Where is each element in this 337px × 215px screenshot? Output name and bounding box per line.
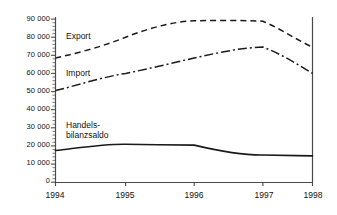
y-axis-major-ticks: [51, 19, 55, 182]
series-label-import: Import: [66, 68, 90, 78]
series-line-import: [56, 47, 313, 91]
series-label-handelsbilanzsaldo-line2: bilanzsaldo: [66, 130, 109, 140]
series-label-handelsbilanzsaldo: Handels- bilanzsaldo: [66, 120, 109, 140]
y-axis-minor-ticks: [53, 23, 56, 179]
series-label-handelsbilanzsaldo-line1: Handels-: [66, 120, 109, 130]
series-line-handelsbilanzsaldo: [56, 144, 313, 156]
plot-area: [0, 0, 337, 215]
line-chart: 90 000 80 000 70 000 60 000 50 000 40 00…: [0, 0, 337, 215]
series-label-export: Export: [66, 31, 91, 41]
